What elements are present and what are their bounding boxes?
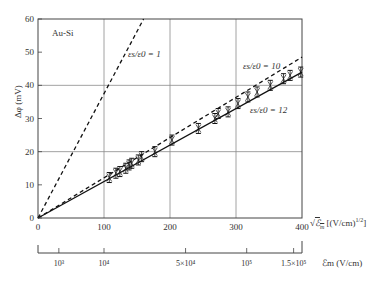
sqrt-unit-exp: 1/2 [356,217,364,223]
x-tick-label: 200 [163,222,177,232]
grid-lines [38,19,302,218]
x-tick-label: 400 [295,222,309,232]
x-axis-label-field: ℰm (V/cm) [322,259,362,268]
x-tick-label: 300 [229,222,243,232]
y-axis-label-text: Δφ (mV) [13,85,23,118]
data-point [281,74,286,84]
data-points [107,67,303,182]
y-tick-label: 60 [25,14,35,24]
y-axis-label: Δφ (mV) [14,85,23,118]
x-tick-label: 100 [97,222,111,232]
secondary-tick-label: 1.5×10⁵ [281,259,307,268]
y-tick-label: 30 [25,114,35,124]
secondary-tick-label: 10³ [54,259,65,268]
y-tick-label: 50 [25,47,35,57]
secondary-tick-label: 10⁵ [241,259,252,268]
field-label-text: ℰm (V/cm) [322,258,362,268]
sqrt-field-symbol: √ℰm [310,218,324,228]
chart-canvas: 01020304050600100200300400 10³10⁴5×10⁴10… [0,0,392,284]
curve-label-eps12: εs/ε0 = 12 [250,106,287,115]
y-tick-label: 0 [30,213,35,223]
secondary-tick-label: 10⁴ [99,259,110,268]
material-label: Au-Si [52,29,74,38]
y-tick-label: 20 [25,147,35,157]
curve-label-eps1: εs/ε0 = 1 [128,50,161,59]
secondary-x-axis: 10³10⁴5×10⁴10⁵1.5×10⁵ [38,241,306,268]
sqrt-unit: [(V/cm) [327,218,356,228]
y-tick-label: 40 [25,80,35,90]
x-axis-label-sqrt: √ℰm [(V/cm)1/2] [310,219,366,228]
secondary-tick-label: 5×10⁴ [176,259,196,268]
y-tick-label: 10 [25,180,35,190]
curve-label-eps10: εs/ε0 = 10 [243,62,280,71]
x-tick-label: 0 [36,222,41,232]
